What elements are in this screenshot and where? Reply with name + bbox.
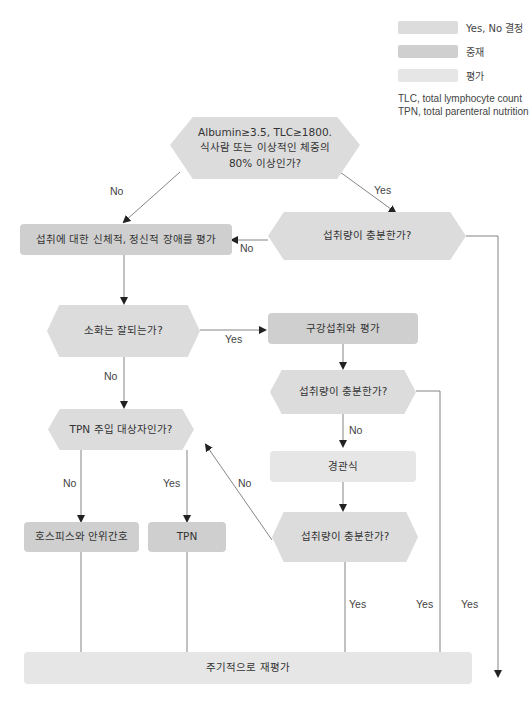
- edge-label-start-yes: Yes: [374, 184, 391, 196]
- edge-label-tpn-no: No: [63, 477, 76, 489]
- legend-swatch-evaluate: [398, 69, 458, 82]
- start-line-3: 80% 이상인가?: [229, 156, 301, 171]
- hospice-care-box: 호스피스와 안위간호: [24, 522, 139, 552]
- decision-intake-adequate-3: 섭취량이 충분한가?: [272, 512, 418, 562]
- edge-label-intake1-no: No: [240, 242, 253, 254]
- edge-label-start-no: No: [110, 185, 123, 197]
- edge-label-intake3-yes: Yes: [349, 598, 366, 610]
- edge-label-tpn-yes: Yes: [163, 477, 180, 489]
- edge-label-intake2-yes: Yes: [416, 598, 433, 610]
- decision-start-criteria: Albumin≥3.5, TLC≥1800. 식사람 또는 이상적인 체중의 8…: [170, 117, 360, 179]
- start-line-2: 식사람 또는 이상적인 체중의: [200, 140, 330, 155]
- legend-note-tlc: TLC, total lymphocyte count: [398, 92, 522, 106]
- edge-label-intake2-no: No: [349, 424, 362, 436]
- decision-digestion-ok: 소화는 잘되는가?: [47, 305, 200, 357]
- edge-label-digestion-no: No: [104, 370, 117, 382]
- edge-label-digestion-yes: Yes: [225, 333, 242, 345]
- legend-decision: Yes, No 결정: [398, 20, 523, 35]
- legend-swatch-mediate: [398, 45, 458, 58]
- decision-intake-adequate-2: 섭취량이 충분한가?: [270, 370, 416, 414]
- legend-label: 중재: [466, 44, 484, 59]
- tpn-box: TPN: [148, 522, 226, 552]
- legend-swatch-decision: [398, 21, 458, 34]
- edge-label-intake1-yes: Yes: [461, 598, 478, 610]
- decision-tpn-candidate: TPN 주입 대상자인가?: [48, 409, 194, 450]
- tube-feeding-box: 경관식: [270, 451, 416, 482]
- edge-label-intake3-no: No: [238, 477, 251, 489]
- legend-note-tpn: TPN, total parenteral nutrition: [398, 105, 529, 119]
- legend-evaluate: 평가: [398, 68, 484, 83]
- legend-label: 평가: [466, 68, 484, 83]
- legend-mediate: 중재: [398, 44, 484, 59]
- legend-label: Yes, No 결정: [466, 20, 523, 35]
- reevaluate-box: 주기적으로 재평가: [24, 652, 472, 684]
- oral-intake-eval-box: 구강섭취와 평가: [268, 313, 418, 344]
- assess-barriers-box: 섭취에 대한 신체적, 정신적 장애를 평가: [20, 224, 232, 255]
- decision-intake-adequate-1: 섭취량이 충분한가?: [268, 212, 466, 260]
- start-line-1: Albumin≥3.5, TLC≥1800.: [198, 125, 332, 140]
